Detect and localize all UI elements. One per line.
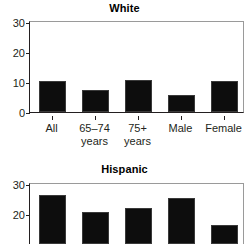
y-tick-mark (26, 215, 30, 216)
chart-panel-hispanic: Hispanic 2030 (0, 150, 249, 244)
y-tick-label: 20 (13, 48, 25, 59)
bar (211, 225, 238, 244)
y-tick-label: 10 (13, 78, 25, 89)
plot-area-hispanic: 2030 (29, 183, 244, 244)
chart-title-hispanic: Hispanic (0, 163, 249, 175)
x-tick-label-line1: All (45, 122, 57, 134)
bar-series-white (30, 22, 243, 112)
bar (39, 195, 66, 244)
x-tick-mark (224, 116, 225, 120)
chart-title-white: White (0, 2, 249, 14)
y-tick-mark (26, 23, 30, 24)
y-tick-label: 30 (13, 180, 25, 191)
x-tick-label-line2: years (73, 135, 116, 148)
plot-area-white: 0102030 (29, 21, 244, 113)
x-tick-label: Female (202, 122, 245, 135)
x-tick-mark (52, 116, 53, 120)
y-tick-mark (26, 113, 30, 114)
x-tick-label-line1: Female (205, 122, 242, 134)
bar (125, 80, 152, 112)
bar (211, 81, 238, 112)
y-tick-label: 20 (13, 210, 25, 221)
x-tick-label: 75+years (116, 122, 159, 148)
bar (39, 81, 66, 112)
y-tick-mark (26, 83, 30, 84)
x-tick-label-line1: Male (169, 122, 193, 134)
chart-panel-white: White 0102030 All65–74years75+yearsMaleF… (0, 0, 249, 150)
y-tick-mark (26, 53, 30, 54)
x-tick-mark (181, 116, 182, 120)
x-axis-labels-white: All65–74years75+yearsMaleFemale (29, 116, 244, 148)
x-tick-label: All (30, 122, 73, 135)
x-tick-mark (138, 116, 139, 120)
bar (82, 90, 109, 112)
x-tick-label: Male (159, 122, 202, 135)
bar (82, 212, 109, 244)
bar (125, 208, 152, 244)
bar-series-hispanic (30, 184, 243, 244)
y-tick-label: 30 (13, 18, 25, 29)
y-tick-mark (26, 185, 30, 186)
x-tick-label-line2: years (116, 135, 159, 148)
bar (168, 198, 195, 244)
x-tick-label-line1: 75+ (128, 122, 147, 134)
y-tick-label: 0 (19, 108, 25, 119)
x-tick-label: 65–74years (73, 122, 116, 148)
bar (168, 95, 195, 112)
x-tick-mark (95, 116, 96, 120)
x-tick-label-line1: 65–74 (79, 122, 110, 134)
